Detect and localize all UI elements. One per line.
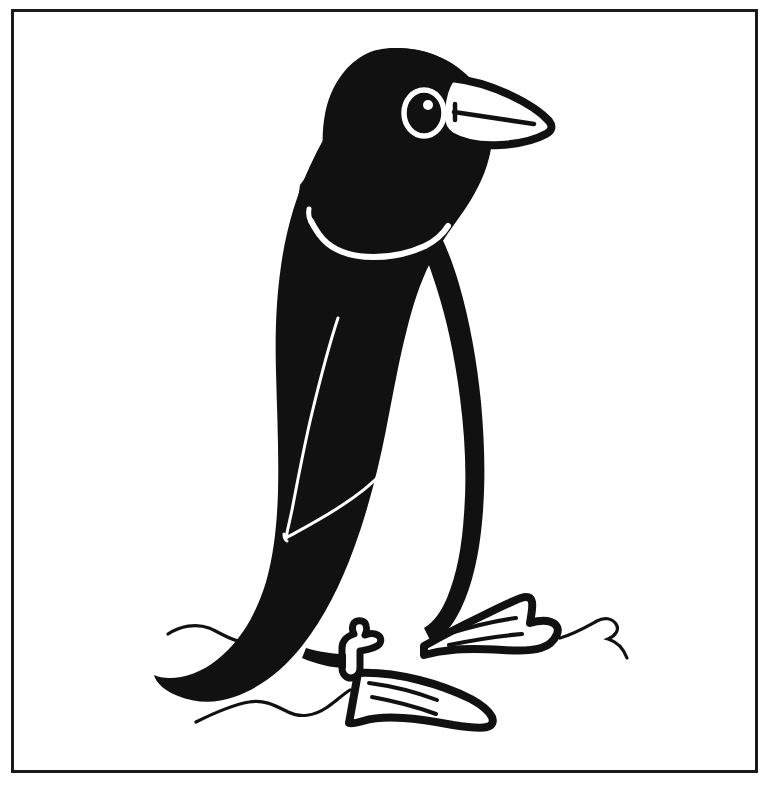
penguin-illustration-svg	[0, 0, 781, 798]
eye-highlight	[423, 100, 433, 110]
illustration-page: Penguin	[0, 0, 781, 798]
chin-strap-tail	[309, 209, 311, 222]
artboard	[0, 0, 781, 798]
